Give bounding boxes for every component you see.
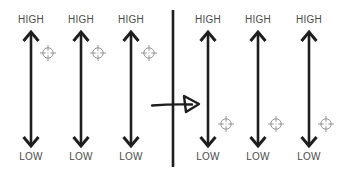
diagram-canvas [0, 0, 353, 173]
scale-high-label: HIGH [18, 15, 44, 25]
crosshair-icon [218, 116, 234, 132]
crosshair-icon [318, 116, 334, 132]
scale-low-label: LOW [119, 152, 142, 162]
before-group [24, 32, 158, 146]
scale-low-label: LOW [196, 152, 219, 162]
double-arrow-icon [201, 32, 216, 146]
crosshair-icon [268, 116, 284, 132]
double-arrow-icon [251, 32, 266, 146]
scale-low-label: LOW [69, 152, 92, 162]
double-arrow-icon [124, 32, 139, 146]
shift-diagram: HIGH HIGH HIGH LOW LOW LOW HIGH HIGH HIG… [0, 0, 353, 173]
scale-high-label: HIGH [68, 15, 94, 25]
crosshair-icon [90, 45, 106, 61]
double-arrow-icon [24, 32, 39, 146]
scale-high-label: HIGH [118, 15, 144, 25]
scale-high-label: HIGH [195, 15, 221, 25]
arrow-right-icon [152, 96, 199, 112]
after-group [201, 32, 335, 146]
scale-high-label: HIGH [245, 15, 271, 25]
scale-low-label: LOW [19, 152, 42, 162]
crosshair-icon [40, 45, 56, 61]
double-arrow-icon [302, 32, 317, 146]
crosshair-icon [141, 45, 157, 61]
scale-low-label: LOW [246, 152, 269, 162]
scale-low-label: LOW [297, 152, 320, 162]
double-arrow-icon [74, 32, 89, 146]
scale-high-label: HIGH [296, 15, 322, 25]
